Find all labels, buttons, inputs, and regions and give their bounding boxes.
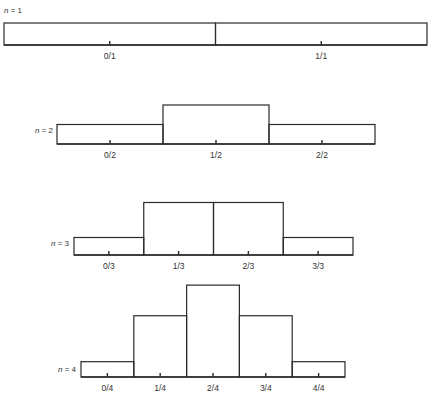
n-variable: n (35, 126, 42, 135)
tick-label: 3/4 (260, 383, 272, 393)
tick-label: 0/3 (103, 261, 115, 271)
tick-label: 0/2 (104, 150, 116, 160)
tick-label: 0/4 (101, 383, 113, 393)
tick-label: 1/2 (210, 150, 222, 160)
histogram-panel-n4: 0/41/42/43/44/4n = 4 (58, 285, 345, 393)
tick-label: 3/3 (312, 261, 324, 271)
n-label: n = 4 (58, 365, 77, 374)
n-variable: n (51, 239, 58, 248)
histogram-panel-n1: 0/11/1n = 1 (4, 6, 427, 61)
bar-3-of-4 (239, 316, 292, 377)
tick-label: 1/3 (173, 261, 185, 271)
tick-label: 2/3 (242, 261, 254, 271)
tick-label: 2/2 (316, 150, 328, 160)
n-value: = 2 (42, 126, 54, 135)
n-variable: n (58, 365, 65, 374)
binomial-histograms: 0/11/1n = 10/21/22/2n = 20/31/32/33/3n =… (0, 0, 440, 405)
tick-label: 1/4 (154, 383, 166, 393)
tick-label: 1/1 (315, 51, 327, 61)
tick-label: 0/1 (104, 51, 116, 61)
n-variable: n (4, 6, 11, 15)
n-value: = 3 (58, 239, 70, 248)
bar-2-of-3 (214, 203, 284, 256)
tick-label: 4/4 (313, 383, 325, 393)
bar-1-of-3 (144, 203, 214, 256)
histogram-panel-n2: 0/21/22/2n = 2 (35, 105, 375, 160)
histogram-panel-n3: 0/31/32/33/3n = 3 (51, 203, 353, 272)
n-value: = 1 (11, 6, 23, 15)
n-value: = 4 (65, 365, 77, 374)
bar-1-of-4 (134, 316, 187, 377)
n-label: n = 2 (35, 126, 54, 135)
bar-1-of-2 (163, 105, 269, 144)
n-label: n = 3 (51, 239, 70, 248)
n-label: n = 1 (4, 6, 23, 15)
tick-label: 2/4 (207, 383, 219, 393)
bar-2-of-4 (187, 285, 240, 377)
